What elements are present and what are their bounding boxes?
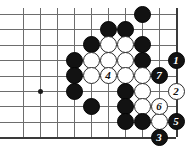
go-board-diagram: 1472653 [0, 0, 196, 155]
stone-black [66, 83, 83, 100]
stone-move-number: 1 [173, 54, 179, 65]
stone-white [117, 67, 134, 84]
stone-white [117, 36, 134, 53]
stone-white [134, 83, 151, 100]
stone-white [100, 36, 117, 53]
stone-black [134, 36, 151, 53]
stone-black-move-7: 7 [151, 67, 168, 84]
stone-white [151, 113, 168, 130]
stone-white-move-2: 2 [168, 83, 185, 100]
stone-black [83, 36, 100, 53]
stone-black-move-3: 3 [151, 129, 168, 146]
stone-black [117, 83, 134, 100]
stone-black [117, 113, 134, 130]
stone-black-move-5: 5 [168, 113, 185, 130]
stone-move-number: 2 [173, 85, 179, 96]
stone-white [134, 67, 151, 84]
stone-move-number: 4 [105, 70, 111, 81]
stone-white-move-6: 6 [151, 98, 168, 115]
stone-white-move-4: 4 [100, 67, 117, 84]
stone-move-number: 7 [156, 70, 162, 81]
stone-black [83, 98, 100, 115]
stone-move-number: 5 [173, 116, 179, 127]
stone-black [66, 67, 83, 84]
board-stones: 1472653 [0, 0, 196, 155]
stone-black [134, 113, 151, 130]
stone-white [83, 67, 100, 84]
stone-black [134, 6, 151, 23]
stone-move-number: 3 [156, 131, 162, 142]
stone-move-number: 6 [156, 100, 162, 111]
stone-black-move-1: 1 [168, 52, 185, 69]
